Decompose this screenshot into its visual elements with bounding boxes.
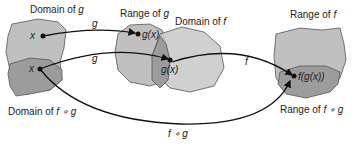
label-fgx: f(g(x)) [298, 71, 325, 82]
point-x-top [41, 34, 46, 39]
label-arrow-fog: f ∘ g [168, 128, 188, 139]
label-gx-top: g(x) [142, 29, 159, 40]
point-fgx [292, 74, 297, 79]
label-gx-overlap: g(x) [161, 64, 178, 75]
label-domain-g: Domain of g [30, 4, 84, 15]
label-x-bottom: x [28, 63, 35, 74]
label-domain-f: Domain of f [175, 16, 227, 27]
point-gx-overlap [168, 58, 173, 63]
label-arrow-g-top: g [92, 18, 98, 29]
label-range-fog: Range of f ∘ g [280, 104, 344, 115]
composition-diagram: Domain of g Range of g Domain of f Range… [0, 0, 356, 147]
point-x-bottom [38, 67, 43, 72]
label-range-g: Range of g [120, 8, 169, 19]
label-domain-fog: Domain of f ∘ g [8, 106, 77, 117]
label-x-top: x [29, 30, 36, 41]
label-arrow-f: f [245, 56, 249, 67]
label-arrow-g-bottom: g [92, 53, 98, 64]
label-range-f: Range of f [290, 9, 337, 20]
point-gx-top [136, 32, 141, 37]
